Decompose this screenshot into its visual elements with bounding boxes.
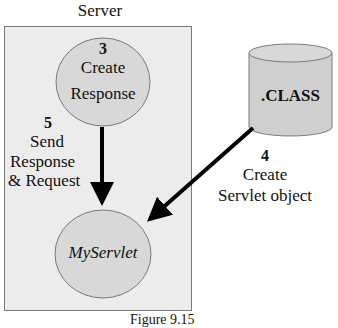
class-label: .CLASS [249,86,332,106]
create-response-label: 3 Create Response [56,40,150,103]
send-line3: & Request [8,171,80,191]
step-5: 5 [8,114,80,132]
create-response-line2: Response [56,84,150,104]
myservlet-label: MyServlet [56,243,150,263]
create-servlet-edge-label: 4 Create Servlet object [196,146,334,206]
figure-caption: Figure 9.15 [130,312,195,328]
send-edge-label: 5 Send Response & Request [8,114,80,191]
create-servlet-line2: Servlet object [196,186,334,206]
step-4: 4 [196,146,334,165]
send-line2: Response [8,152,80,172]
create-servlet-line1: Create [196,165,334,185]
send-line1: Send [8,132,80,152]
step-3: 3 [56,40,150,58]
create-response-line1: Create [56,58,150,78]
